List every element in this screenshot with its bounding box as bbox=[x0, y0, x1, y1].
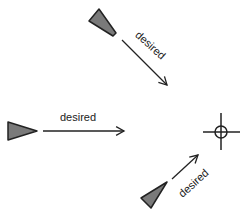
crosshair-target-icon bbox=[203, 113, 240, 150]
agent-left-wedge-icon bbox=[8, 122, 37, 140]
agent-bottom-wedge-icon bbox=[141, 182, 167, 208]
arrow-bottom: desired bbox=[172, 155, 211, 200]
diagram-svg: desireddesireddesired bbox=[0, 0, 246, 217]
arrow-left: desired bbox=[43, 111, 124, 135]
diagram-canvas: desireddesireddesired bbox=[0, 0, 246, 217]
agent-top-wedge-icon bbox=[89, 9, 116, 36]
arrow-left-label: desired bbox=[60, 111, 96, 123]
arrows-group: desireddesireddesired bbox=[43, 28, 211, 199]
arrow-top: desired bbox=[122, 28, 168, 85]
